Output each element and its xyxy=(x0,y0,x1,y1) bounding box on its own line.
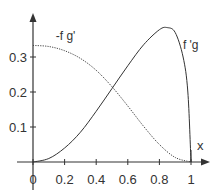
x-tick-label: 0.2 xyxy=(56,172,74,187)
x-ticks: 00.20.40.60.81 xyxy=(29,159,194,187)
y-axis-arrow-icon xyxy=(30,13,37,22)
x-tick-label: 0 xyxy=(29,172,36,187)
series-fprime-g xyxy=(33,27,191,162)
x-tick-label: 1 xyxy=(187,172,194,187)
label-neg-f-gprime: -f g' xyxy=(56,29,76,43)
series-neg-f-gprime xyxy=(33,45,191,162)
y-tick-label: 0.3 xyxy=(9,50,27,65)
y-tick-label: 0.2 xyxy=(9,85,27,100)
x-tick-label: 0.4 xyxy=(87,172,105,187)
axes xyxy=(17,16,207,190)
chart: 00.20.40.60.81 0.10.20.3 -f g' f 'g x xyxy=(0,0,219,194)
label-fprime-g: f 'g xyxy=(183,38,199,52)
x-axis-arrow-icon xyxy=(201,159,210,166)
y-ticks: 0.10.20.3 xyxy=(9,50,36,135)
x-axis-label: x xyxy=(197,138,204,153)
x-tick-label: 0.8 xyxy=(150,172,168,187)
y-tick-label: 0.1 xyxy=(9,120,27,135)
x-tick-label: 0.6 xyxy=(119,172,137,187)
